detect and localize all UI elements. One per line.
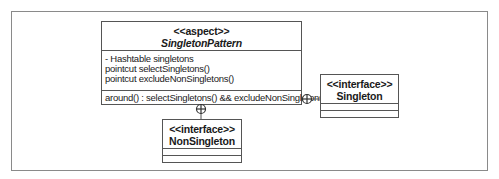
attributes-compartment bbox=[163, 149, 241, 156]
stereotype-label: <<interface>> bbox=[321, 78, 398, 90]
advice: around() : selectSingletons() && exclude… bbox=[102, 93, 301, 103]
attributes-compartment bbox=[321, 104, 398, 111]
class-name: SingletonPattern bbox=[102, 37, 301, 49]
operations-compartment: around() : selectSingletons() && exclude… bbox=[102, 91, 301, 106]
class-header: <<aspect>> SingletonPattern bbox=[102, 22, 301, 51]
class-singleton-pattern: <<aspect>> SingletonPattern - Hashtable … bbox=[101, 21, 302, 105]
class-name: Singleton bbox=[321, 90, 398, 102]
pointcut: pointcut excludeNonSingletons() bbox=[102, 74, 301, 84]
attributes-compartment: - Hashtable singletons pointcut selectSi… bbox=[102, 51, 301, 91]
operations-compartment bbox=[321, 111, 398, 118]
class-name: NonSingleton bbox=[163, 135, 241, 147]
class-header: <<interface>> Singleton bbox=[321, 75, 398, 104]
class-non-singleton: <<interface>> NonSingleton bbox=[162, 119, 242, 163]
class-singleton: <<interface>> Singleton bbox=[320, 74, 399, 118]
stereotype-label: <<aspect>> bbox=[102, 25, 301, 37]
stereotype-label: <<interface>> bbox=[163, 123, 241, 135]
operations-compartment bbox=[163, 156, 241, 163]
class-header: <<interface>> NonSingleton bbox=[163, 120, 241, 149]
